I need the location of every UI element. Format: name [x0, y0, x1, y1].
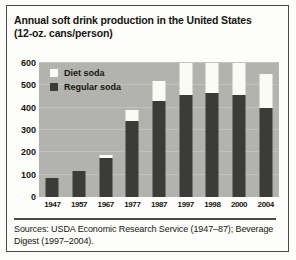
chart-legend: Diet sodaRegular soda — [50, 68, 160, 96]
bar-segment-regular-1998 — [206, 93, 219, 197]
bar-segment-regular-2004 — [259, 108, 272, 197]
bar-segment-diet-1977 — [126, 110, 139, 121]
x-axis-tick-labels: 194719571967197719871997199820002004 — [39, 200, 279, 214]
x-axis-label-1987: 1987 — [146, 200, 173, 214]
chart-figure: Annual soft drink production in the Unit… — [0, 0, 296, 260]
legend-item-regular[interactable]: Regular soda — [50, 82, 160, 92]
y-axis-label-100: 100 — [21, 170, 36, 179]
bar-segment-diet-1998 — [206, 63, 219, 93]
x-axis-label-1997: 1997 — [172, 200, 199, 214]
bar-1967[interactable] — [99, 155, 112, 197]
bar-segment-regular-1977 — [126, 121, 139, 197]
bar-1957[interactable] — [73, 171, 86, 197]
legend-label-regular: Regular soda — [64, 83, 121, 92]
source-divider — [14, 218, 276, 220]
x-axis-label-1998: 1998 — [199, 200, 226, 214]
bar-segment-diet-2004 — [259, 74, 272, 108]
x-axis-label-2004: 2004 — [252, 200, 279, 214]
bar-segment-regular-1957 — [73, 171, 86, 197]
bar-1998[interactable] — [206, 63, 219, 197]
chart-title-line-1: Annual soft drink production in the Unit… — [14, 14, 276, 27]
legend-swatch-diet-icon — [50, 69, 58, 77]
bar-segment-diet-2000 — [233, 63, 246, 95]
bar-1947[interactable] — [46, 178, 59, 197]
y-axis-label-0: 0 — [31, 193, 36, 202]
y-axis-tick-labels: 0100200300400500600 — [10, 56, 36, 204]
bar-slot-1998 — [199, 63, 226, 197]
y-axis-label-400: 400 — [21, 103, 36, 112]
bar-segment-regular-1947 — [46, 178, 59, 197]
bar-segment-regular-1967 — [99, 158, 112, 197]
x-axis-label-1957: 1957 — [66, 200, 93, 214]
bar-slot-2004 — [252, 63, 279, 197]
x-axis-label-1967: 1967 — [92, 200, 119, 214]
bar-1977[interactable] — [126, 110, 139, 197]
legend-swatch-regular-icon — [50, 83, 58, 91]
bar-slot-2000 — [226, 63, 253, 197]
legend-label-diet: Diet soda — [64, 69, 105, 78]
y-axis-label-500: 500 — [21, 81, 36, 90]
legend-item-diet[interactable]: Diet soda — [50, 68, 160, 78]
bar-2004[interactable] — [259, 74, 272, 197]
bar-2000[interactable] — [233, 63, 246, 197]
bar-segment-regular-2000 — [233, 95, 246, 197]
chart-title-line-2: (12-oz. cans/person) — [14, 27, 276, 40]
x-axis-label-1947: 1947 — [39, 200, 66, 214]
bar-segment-regular-1987 — [153, 101, 166, 197]
x-axis-label-2000: 2000 — [226, 200, 253, 214]
chart-title: Annual soft drink production in the Unit… — [14, 14, 276, 40]
bar-1987[interactable] — [153, 81, 166, 197]
bar-1997[interactable] — [179, 63, 192, 197]
bar-slot-1997 — [172, 63, 199, 197]
source-note: Sources: USDA Economic Research Service … — [14, 224, 278, 247]
y-axis-label-300: 300 — [21, 126, 36, 135]
x-axis-label-1977: 1977 — [119, 200, 146, 214]
bar-segment-diet-1997 — [179, 63, 192, 95]
bar-segment-regular-1997 — [179, 95, 192, 197]
y-axis-label-600: 600 — [21, 59, 36, 68]
y-axis-label-200: 200 — [21, 148, 36, 157]
